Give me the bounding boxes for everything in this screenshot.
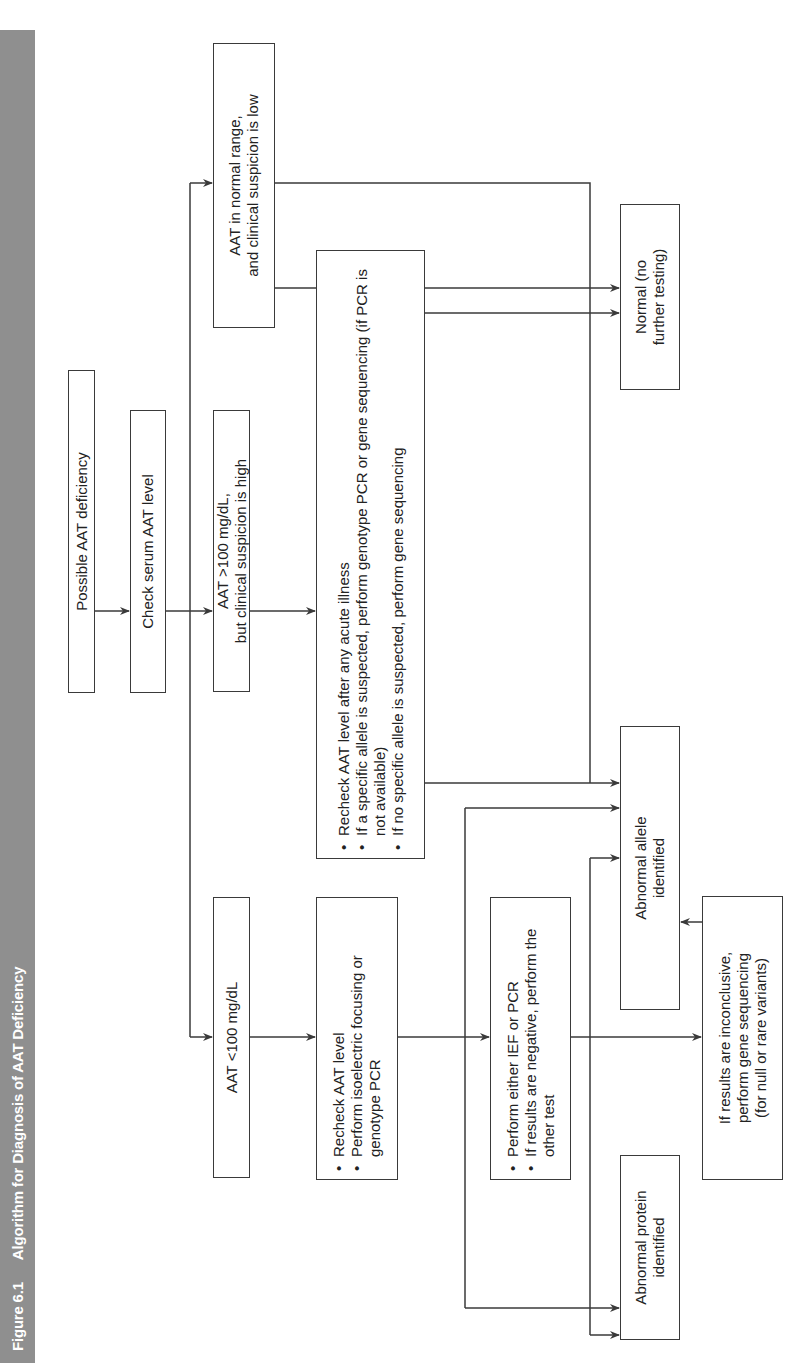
aat-high-line2: but clinical suspicion is high	[232, 459, 250, 643]
abnormal-protein-node: Abnormal protein identified	[620, 1155, 680, 1340]
aat-low-node: AAT <100 mg/dL	[213, 897, 250, 1178]
normal-result-node: Normal (no further testing)	[620, 204, 680, 390]
normal-result-line1: Normal (no	[632, 260, 650, 334]
flowchart-frame: Figure 6.1 Algorithm for Diagnosis of AA…	[0, 0, 808, 1363]
ief-pcr-list: Perform either IEF or PCR If results are…	[504, 906, 558, 1171]
aat-high-node: AAT >100 mg/dL, but clinical suspicion i…	[213, 410, 250, 692]
aat-normal-range-line1: AAT in normal range,	[226, 115, 244, 255]
abnormal-allele-line2: identified	[650, 838, 668, 898]
check-serum-node: Check serum AAT level	[130, 410, 166, 693]
aat-high-line1: AAT >100 mg/dL,	[214, 493, 232, 609]
normal-result-line2: further testing)	[650, 249, 668, 346]
recheck-low-node: Recheck AAT level Perform isoelectric fo…	[316, 897, 398, 1180]
recheck-low-item: Recheck AAT level	[330, 906, 348, 1171]
abnormal-protein-line2: identified	[650, 1217, 668, 1277]
recheck-high-list: Recheck AAT level after any acute illnes…	[335, 259, 407, 850]
inconclusive-line3: (for null or rare variants)	[752, 958, 770, 1118]
recheck-low-item: Perform isoelectric focusing or genotype…	[348, 906, 384, 1171]
abnormal-allele-line1: Abnormal allele	[632, 816, 650, 919]
ief-pcr-item: If results are negative, perform the oth…	[522, 906, 558, 1171]
inconclusive-line1: If results are inconclusive,	[716, 952, 734, 1125]
aat-normal-range-line2: and clinical suspicion is low	[244, 94, 262, 277]
ief-pcr-node: Perform either IEF or PCR If results are…	[490, 897, 571, 1180]
aat-low-label: AAT <100 mg/dL	[223, 982, 241, 1094]
inconclusive-line2: perform gene sequencing	[734, 953, 752, 1123]
recheck-high-item: Recheck AAT level after any acute illnes…	[335, 259, 353, 850]
start-node-label: Possible AAT deficiency	[73, 452, 91, 611]
aat-normal-range-node: AAT in normal range, and clinical suspic…	[213, 43, 275, 328]
abnormal-protein-line1: Abnormal protein	[632, 1190, 650, 1304]
inconclusive-node: If results are inconclusive, perform gen…	[702, 896, 783, 1180]
check-serum-label: Check serum AAT level	[139, 474, 157, 629]
recheck-high-item: If a specific allele is suspected, perfo…	[353, 259, 389, 850]
abnormal-allele-node: Abnormal allele identified	[620, 726, 680, 1010]
recheck-high-node: Recheck AAT level after any acute illnes…	[316, 250, 425, 859]
recheck-high-item: If no specific allele is suspected, perf…	[389, 259, 407, 850]
start-node: Possible AAT deficiency	[68, 370, 95, 693]
recheck-low-list: Recheck AAT level Perform isoelectric fo…	[330, 906, 384, 1171]
ief-pcr-item: Perform either IEF or PCR	[504, 906, 522, 1171]
